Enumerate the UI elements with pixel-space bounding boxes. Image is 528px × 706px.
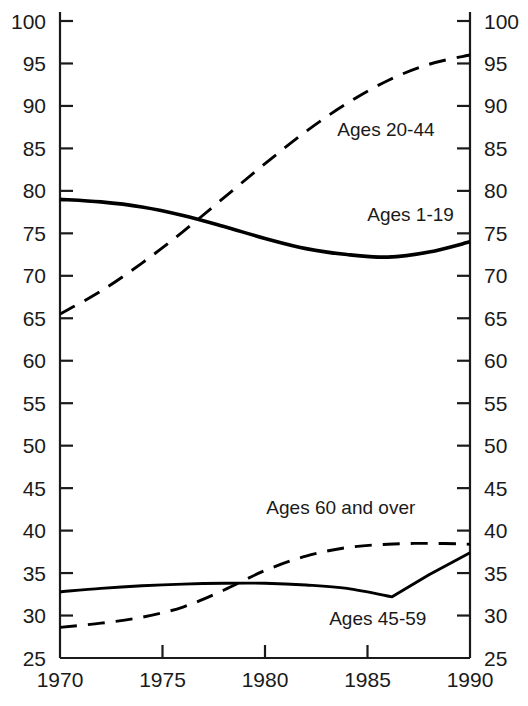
- series-annotation: Ages 60 and over: [266, 497, 416, 518]
- chart-background: [0, 0, 528, 706]
- x-axis-tick-label: 1985: [344, 668, 391, 691]
- y-axis-left-tick-label: 95: [23, 52, 46, 75]
- y-axis-right-tick-label: 65: [484, 307, 507, 330]
- series-annotation: Ages 1-19: [367, 204, 454, 225]
- y-axis-right-tick-label: 70: [484, 264, 507, 287]
- y-axis-left-tick-label: 60: [23, 349, 46, 372]
- y-axis-right-tick-label: 100: [484, 10, 519, 33]
- y-axis-right-tick-label: 50: [484, 434, 507, 457]
- y-axis-left-tick-label: 90: [23, 94, 46, 117]
- y-axis-right-tick-label: 90: [484, 94, 507, 117]
- y-axis-left-tick-label: 40: [23, 519, 46, 542]
- y-axis-left-tick-label: 45: [23, 477, 46, 500]
- y-axis-right-tick-label: 85: [484, 137, 507, 160]
- y-axis-left-tick-label: 55: [23, 392, 46, 415]
- y-axis-left-tick-label: 75: [23, 222, 46, 245]
- y-axis-left-tick-label: 50: [23, 434, 46, 457]
- y-axis-right-tick-label: 45: [484, 477, 507, 500]
- y-axis-right-tick-label: 60: [484, 349, 507, 372]
- x-axis-tick-label: 1975: [139, 668, 186, 691]
- line-chart: 253035404550556065707580859095100 253035…: [0, 0, 528, 706]
- y-axis-left-tick-label: 65: [23, 307, 46, 330]
- y-axis-right-tick-label: 40: [484, 519, 507, 542]
- y-axis-right-tick-label: 30: [484, 604, 507, 627]
- y-axis-left-tick-label: 80: [23, 179, 46, 202]
- series-annotation: Ages 45-59: [329, 608, 426, 629]
- y-axis-right-tick-label: 80: [484, 179, 507, 202]
- y-axis-right-tick-label: 75: [484, 222, 507, 245]
- y-axis-left-tick-label: 30: [23, 604, 46, 627]
- x-axis-tick-label: 1990: [447, 668, 494, 691]
- series-annotation: Ages 20-44: [337, 119, 435, 140]
- x-axis-tick-label: 1980: [242, 668, 289, 691]
- y-axis-left-tick-label: 25: [23, 647, 46, 670]
- chart-container: 253035404550556065707580859095100 253035…: [0, 0, 528, 706]
- y-axis-left-tick-label: 85: [23, 137, 46, 160]
- y-axis-left-tick-label: 35: [23, 562, 46, 585]
- x-axis-tick-label: 1970: [37, 668, 84, 691]
- y-axis-left-tick-label: 70: [23, 264, 46, 287]
- y-axis-right-tick-label: 95: [484, 52, 507, 75]
- y-axis-right-tick-label: 35: [484, 562, 507, 585]
- y-axis-right-tick-label: 25: [484, 647, 507, 670]
- y-axis-left-tick-label: 100: [11, 10, 46, 33]
- y-axis-right-tick-label: 55: [484, 392, 507, 415]
